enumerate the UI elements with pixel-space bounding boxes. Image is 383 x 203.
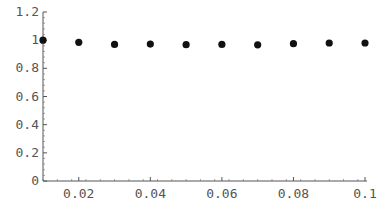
data-point [183,41,190,48]
y-tick-label: 0.4 [16,117,40,132]
data-point [218,41,225,48]
x-tick-label: 0.04 [135,186,166,201]
data-point [326,39,333,46]
y-tick-label: 1 [31,32,39,47]
x-tick-label: 0.06 [206,186,237,201]
x-tick-label: 0.08 [278,186,309,201]
axes [43,12,367,181]
x-tick-label: 0.02 [63,186,94,201]
y-tick-label: 0.8 [16,60,39,75]
data-point [254,41,261,48]
data-point [147,41,154,48]
y-axis-ticks: 00.20.40.60.811.2 [16,4,47,188]
data-point [290,40,297,47]
y-tick-label: 1.2 [16,4,39,19]
scatter-chart: 00.20.40.60.811.2 0.020.040.060.080.1 [0,0,383,203]
data-point [111,41,118,48]
x-tick-label: 0.1 [353,186,376,201]
data-point [39,37,46,44]
data-point [361,39,368,46]
data-points [39,37,368,49]
y-tick-label: 0.2 [16,145,39,160]
data-point [75,39,82,46]
y-tick-label: 0.6 [16,89,39,104]
y-tick-label: 0 [31,173,39,188]
